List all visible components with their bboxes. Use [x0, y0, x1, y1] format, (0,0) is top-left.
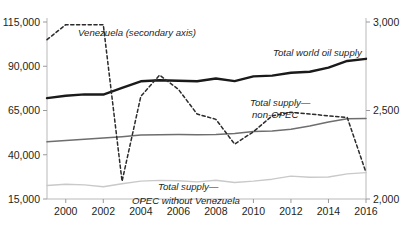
x-tick-label: 2006 [167, 205, 191, 217]
annotation-opec-without-venezuela: OPEC without Venezuela [132, 195, 240, 206]
annotation-total-supply: Total supply— [158, 181, 219, 192]
left-tick-label: 40,000 [8, 149, 40, 161]
x-tick-label: 2014 [317, 205, 341, 217]
x-tick-label: 2008 [204, 205, 228, 217]
x-tick-label: 2016 [354, 205, 378, 217]
line-chart: 15,00040,00065,00090,000115,000 2,0002,5… [0, 0, 414, 240]
annotation-total-supply: Total supply— [250, 97, 311, 108]
x-tick-label: 2000 [54, 205, 78, 217]
x-tick-label: 2004 [129, 205, 153, 217]
right-tick-label: 2,500 [373, 104, 399, 116]
x-tick-label: 2002 [92, 205, 116, 217]
annotation-venezuela-secondary-axis: Venezuela (secondary axis) [78, 27, 196, 38]
left-tick-label: 90,000 [8, 60, 40, 72]
annotation-total-world-oil-supply: Total world oil supply [273, 47, 363, 58]
x-tick-label: 2012 [279, 205, 303, 217]
annotation-non-opec: non-OPEC [252, 109, 298, 120]
left-tick-label: 65,000 [8, 104, 40, 116]
left-tick-label: 15,000 [8, 193, 40, 205]
right-tick-label: 3,000 [373, 16, 399, 28]
left-tick-label: 115,000 [3, 16, 40, 28]
chart-container: 15,00040,00065,00090,000115,000 2,0002,5… [0, 0, 414, 240]
right-tick-label: 2,000 [373, 193, 399, 205]
x-tick-label: 2010 [242, 205, 266, 217]
